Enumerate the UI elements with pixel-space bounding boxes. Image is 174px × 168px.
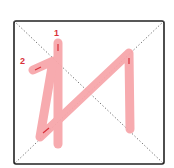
stroke-2 xyxy=(33,53,130,137)
stroke-label-2: 2 xyxy=(20,57,25,66)
stroke-order-diagram xyxy=(0,0,174,168)
stroke-label-1: 1 xyxy=(54,29,59,38)
